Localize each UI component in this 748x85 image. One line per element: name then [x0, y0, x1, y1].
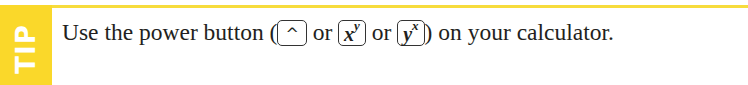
top-rule-divider [0, 5, 748, 8]
tip-text-before: Use the power button ( [62, 19, 277, 45]
caret-key-icon: ^ [277, 20, 306, 46]
tip-text-separator: or [307, 19, 338, 45]
tip-label: TIP [13, 24, 39, 73]
tip-sidebar-band: TIP [0, 5, 52, 85]
tip-text-after: ) on your calculator. [425, 19, 614, 45]
tip-text: Use the power button (^ or xy or yx) on … [62, 17, 614, 48]
y-power-x-key-icon: yx [397, 20, 424, 46]
x-power-y-key-icon: xy [338, 20, 366, 46]
tip-text-separator: or [366, 19, 397, 45]
